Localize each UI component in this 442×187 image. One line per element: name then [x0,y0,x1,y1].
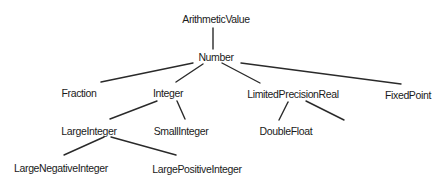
class-hierarchy-diagram: ArithmeticValue Number Fraction Integer … [0,0,442,187]
edge-number-limitedprecisionreal [222,63,260,83]
node-integer: Integer [153,87,183,99]
edge-number-fixedpoint [241,63,401,84]
edge-largeinteger-largenegativeinteger [64,137,104,155]
node-large-negative-integer: LargeNegativeInteger [14,162,108,174]
edge-integer-smallinteger [177,101,185,119]
node-large-integer: LargeInteger [61,125,116,137]
node-limited-precision-real: LimitedPrecisionReal [247,88,339,100]
node-large-positive-integer: LargePositiveInteger [152,163,241,175]
node-fixed-point: FixedPoint [385,89,431,101]
edge-largeinteger-largepositiveinteger [111,137,176,155]
node-small-integer: SmallInteger [154,125,209,137]
edge-limitedprecisionreal-unlabeled [306,101,344,120]
node-number: Number [198,51,233,63]
edge-number-integer [176,64,203,82]
node-double-float: DoubleFloat [260,125,313,137]
edge-limitedprecisionreal-doublefloat [279,102,288,120]
node-fraction: Fraction [61,87,96,99]
node-arithmetic-value: ArithmeticValue [182,13,250,25]
edge-integer-largeinteger [110,101,157,119]
